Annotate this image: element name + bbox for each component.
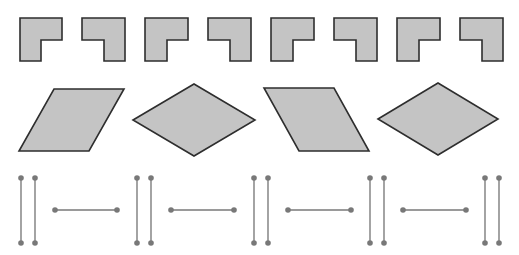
vertical-segment-5 (148, 175, 154, 246)
vertical-segment-11 (381, 175, 387, 246)
vertical-segment-4 (134, 175, 140, 246)
vertical-segment-2 (32, 175, 38, 246)
l-shape-5 (271, 18, 314, 61)
l-shape-3 (145, 18, 188, 61)
l-shape-2 (82, 18, 125, 61)
l-shape-1 (20, 18, 62, 61)
shapes-diagram (0, 0, 519, 255)
l-shapes-row (20, 18, 503, 61)
vertical-segment-13 (482, 175, 488, 246)
horizontal-segment-3 (52, 207, 120, 213)
rhombus-4 (378, 83, 498, 155)
rhombus-2 (133, 84, 255, 156)
l-shape-8 (460, 18, 503, 61)
l-shape-6 (334, 18, 377, 61)
vertical-segment-1 (18, 175, 24, 246)
l-shape-4 (208, 18, 251, 61)
parallelogram-left-lean-3 (264, 88, 369, 151)
horizontal-segment-12 (400, 207, 469, 213)
quadrilaterals-row (19, 83, 498, 156)
parallelogram-right-lean-1 (19, 89, 124, 151)
horizontal-segment-6 (168, 207, 237, 213)
l-shape-7 (397, 18, 440, 61)
line-segments-row (18, 175, 502, 246)
vertical-segment-7 (251, 175, 257, 246)
vertical-segment-8 (265, 175, 271, 246)
vertical-segment-14 (496, 175, 502, 246)
horizontal-segment-9 (285, 207, 354, 213)
vertical-segment-10 (367, 175, 373, 246)
